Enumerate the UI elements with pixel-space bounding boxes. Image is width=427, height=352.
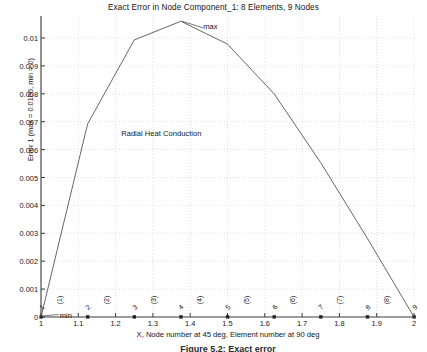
element-number-label: (3) <box>150 296 157 305</box>
element-number-label: (7) <box>336 296 343 305</box>
annotation-min: min <box>60 311 72 320</box>
element-number-label: (6) <box>290 296 297 305</box>
element-number-label: (5) <box>243 296 250 305</box>
element-number-label: (8) <box>383 296 390 305</box>
x-tick-label: 2 <box>412 319 416 328</box>
x-tick-label: 1 <box>39 319 43 328</box>
x-tick-label: 1.7 <box>297 319 307 328</box>
x-tick-label: 1.1 <box>73 319 83 328</box>
element-number-label: (4) <box>196 296 203 305</box>
chart-plot-area <box>0 0 427 352</box>
annotation-radial-heat-conduction: Radial Heat Conduction <box>121 129 201 138</box>
x-tick-label: 1.4 <box>185 319 195 328</box>
x-tick-label: 1.3 <box>148 319 158 328</box>
element-number-label: (2) <box>103 296 110 305</box>
figure-caption: Figure 5.2: Exact error <box>41 344 415 352</box>
x-tick-label: 1.5 <box>222 319 232 328</box>
x-tick-label: 1.8 <box>334 319 344 328</box>
element-number-label: (1) <box>57 296 64 305</box>
x-tick-label: 1.2 <box>110 319 120 328</box>
x-axis-label: X, Node number at 45 deg, Element number… <box>41 330 415 339</box>
x-tick-label: 1.6 <box>260 319 270 328</box>
x-tick-label: 1.9 <box>372 319 382 328</box>
annotation-max: max <box>203 22 217 31</box>
